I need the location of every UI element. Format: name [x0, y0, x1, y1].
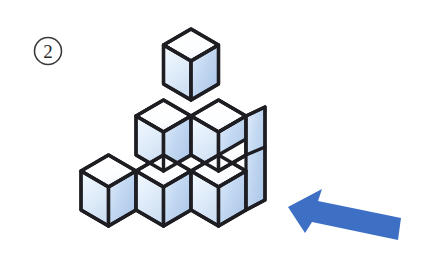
- isometric-cube-figure: 2: [0, 0, 427, 267]
- left-pointing-arrow-icon: [288, 189, 401, 240]
- item-number-label: 2: [43, 41, 53, 62]
- cube-face-right: [246, 107, 265, 210]
- direction-arrow: [288, 189, 401, 240]
- item-number-badge: 2: [35, 38, 62, 65]
- puzzle-figure-panel: 2: [0, 0, 427, 267]
